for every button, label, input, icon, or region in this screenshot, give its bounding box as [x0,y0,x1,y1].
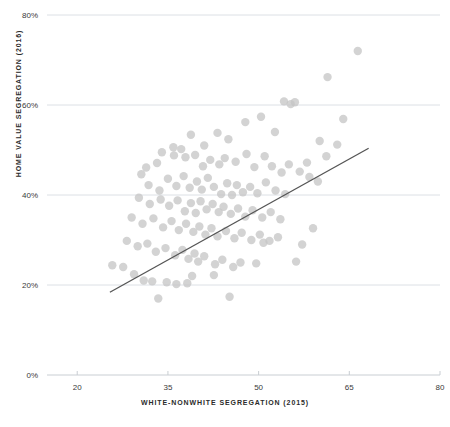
data-point [108,261,116,269]
data-point [167,217,175,225]
data-point [231,158,239,166]
data-point [224,135,232,143]
data-point [196,197,204,205]
data-point [119,263,127,271]
data-point [339,115,347,123]
data-point [219,203,227,211]
data-point [247,236,255,244]
data-point [198,185,206,193]
data-point [223,179,231,187]
x-tick-label: 80 [436,383,445,392]
data-point [206,156,214,164]
data-point [333,140,341,148]
data-point [153,159,161,167]
data-point [259,239,267,247]
data-point [217,190,225,198]
data-point [208,200,216,208]
data-point [276,215,284,223]
data-points [108,47,362,303]
data-point [190,249,198,257]
data-point [229,263,237,271]
y-tick-labels: 0%20%40%60%80% [22,11,38,380]
data-point [159,223,167,231]
y-axis-title: HOME VALUE SEGREGATION (2016) [15,0,22,214]
data-point [148,277,156,285]
x-tick-labels: 2035506580 [73,383,445,392]
data-point [193,177,201,185]
x-tick-label: 50 [254,383,263,392]
data-point [185,184,193,192]
tick-marks [77,371,440,375]
data-point [143,239,151,247]
x-tick-label: 35 [163,383,172,392]
data-point [173,196,181,204]
data-point [239,188,247,196]
data-point [177,145,185,153]
y-tick-label: 60% [22,101,38,110]
data-point [213,129,221,137]
data-point [230,234,238,242]
data-point [181,153,189,161]
data-point [182,220,190,228]
data-point [250,163,258,171]
x-tick-label: 65 [345,383,354,392]
data-point [140,276,148,284]
data-point [323,73,331,81]
data-point [187,199,195,207]
data-point [233,181,241,189]
data-point [138,220,146,228]
data-point [161,244,169,252]
data-point [277,168,285,176]
data-point [322,152,330,160]
data-point [210,183,218,191]
data-point [271,186,279,194]
data-point [133,242,141,250]
data-point [271,128,279,136]
data-point [155,186,163,194]
data-point [303,158,311,166]
data-point [236,258,244,266]
data-point [135,194,143,202]
data-point [292,257,300,265]
data-point [191,151,199,159]
data-point [127,213,135,221]
data-point [152,248,160,256]
data-point [195,222,203,230]
data-point [354,47,362,55]
data-point [158,148,166,156]
data-point [164,175,172,183]
data-point [199,162,207,170]
data-point [260,152,268,160]
data-point [210,271,218,279]
data-point [204,174,212,182]
data-point [225,293,233,301]
data-point [188,272,196,280]
x-tick-label: 20 [73,383,82,392]
data-point [156,195,164,203]
data-point [200,141,208,149]
data-point [163,278,171,286]
data-point [218,256,226,264]
y-tick-label: 40% [22,191,38,200]
data-point [228,191,236,199]
data-point [169,143,177,151]
data-point [175,226,183,234]
scatter-chart: 0%20%40%60%80% 2035506580 HOME VALUE SEG… [0,0,450,427]
data-point [227,210,235,218]
data-point [242,150,250,158]
data-point [172,182,180,190]
data-point [170,151,178,159]
data-point [123,237,131,245]
data-point [274,233,282,241]
data-point [221,154,229,162]
x-axis-title: WHITE-NONWHITE SEGREGATION (2015) [0,399,450,406]
data-point [285,160,293,168]
data-point [149,214,157,222]
data-point [309,224,317,232]
data-point [268,162,276,170]
data-point [252,259,260,267]
data-point [267,208,275,216]
data-point [146,200,154,208]
data-point [181,207,189,215]
data-point [298,240,306,248]
